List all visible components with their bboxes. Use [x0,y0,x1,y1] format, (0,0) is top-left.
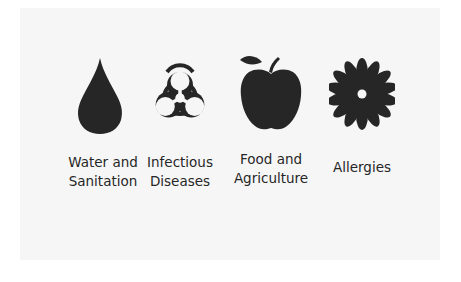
water-drop-icon [77,58,123,134]
label-food-and-agriculture: Food and Agriculture [234,150,308,188]
label-line: Sanitation [68,172,138,191]
flower-icon [329,58,395,130]
label-line: Food and [234,150,308,169]
label-allergies: Allergies [333,158,391,177]
label-line: Allergies [333,158,391,177]
label-infectious-diseases: Infectious Diseases [147,153,213,191]
label-line: Diseases [147,172,213,191]
label-water-and-sanitation: Water and Sanitation [68,153,138,191]
apple-icon [240,54,302,132]
biohazard-icon [144,62,216,134]
show-through-text [22,10,438,260]
label-line: Water and [68,153,138,172]
label-line: Agriculture [234,169,308,188]
label-line: Infectious [147,153,213,172]
